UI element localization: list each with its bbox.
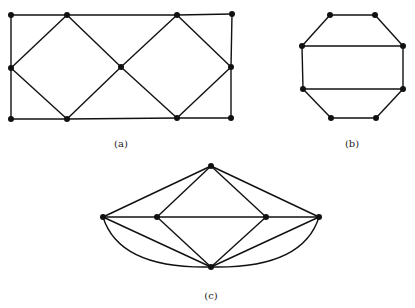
graph-b-label: (b) — [345, 138, 359, 149]
edge-b7-b5 — [303, 89, 331, 118]
edge-c2-c6 — [103, 217, 211, 267]
vertex-c4 — [263, 214, 269, 220]
edge-b3-b1 — [302, 15, 330, 46]
vertex-b5 — [300, 86, 306, 92]
edge-c1-c5 — [211, 166, 319, 217]
vertex-a8 — [64, 116, 70, 122]
vertex-a5 — [8, 65, 14, 71]
edge-a5-a8 — [11, 68, 67, 119]
edge-a3-a7 — [177, 15, 231, 67]
vertex-a2 — [64, 12, 70, 18]
edge-a10-a3 — [121, 15, 177, 67]
vertex-b2 — [372, 12, 378, 18]
graph-diagrams: (a) (b) (c) — [0, 0, 415, 308]
graph-c — [100, 163, 322, 270]
vertex-a1 — [8, 12, 14, 18]
vertex-b6 — [400, 86, 406, 92]
graph-b — [299, 12, 406, 121]
edge-a5-a2 — [11, 15, 67, 68]
edge-b5-b3 — [302, 46, 303, 89]
edge-a2-a10 — [67, 15, 121, 67]
edge-b6-b8 — [376, 89, 403, 118]
graph-a-label: (a) — [114, 138, 128, 149]
vertex-c6 — [208, 264, 214, 270]
vertex-c1 — [208, 163, 214, 169]
edge-a8-a10 — [67, 67, 121, 119]
graph-c-label: (c) — [204, 290, 218, 301]
vertex-c5 — [316, 214, 322, 220]
edge-a8-a9 — [67, 118, 177, 119]
vertex-a4 — [229, 11, 235, 17]
vertex-b1 — [327, 12, 333, 18]
vertex-b4 — [400, 43, 406, 49]
vertex-a7 — [228, 64, 234, 70]
vertex-b8 — [373, 115, 379, 121]
vertex-a9 — [174, 115, 180, 121]
vertex-c3 — [154, 214, 160, 220]
edge-a3-a4 — [177, 14, 232, 15]
vertex-b3 — [299, 43, 305, 49]
vertex-a10 — [118, 64, 124, 70]
vertex-a3 — [174, 12, 180, 18]
vertex-a6 — [8, 116, 14, 122]
edge-c1-c3 — [157, 166, 211, 217]
edge-b2-b4 — [375, 15, 403, 46]
edge-a9-a7 — [177, 67, 231, 118]
edge-c4-c6 — [211, 217, 266, 267]
vertex-b7 — [328, 115, 334, 121]
edge-a4-a7 — [231, 14, 232, 67]
graph-a — [8, 11, 235, 122]
edge-a10-a9 — [121, 67, 177, 118]
edge-c1-c4 — [211, 166, 266, 217]
vertex-c2 — [100, 214, 106, 220]
edge-c3-c6 — [157, 217, 211, 267]
vertex-a11 — [228, 115, 234, 121]
edge-c5-c6 — [211, 217, 319, 267]
edge-c1-c2 — [103, 166, 211, 217]
